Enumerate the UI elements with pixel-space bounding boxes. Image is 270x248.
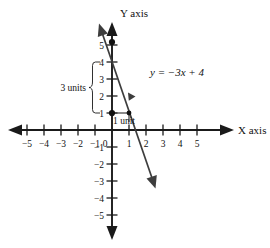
x-tick-label: 2 xyxy=(144,139,149,149)
y-tick-label: −1 xyxy=(94,143,104,153)
x-tick-label: −5 xyxy=(22,139,32,149)
x-axis-left-arrow-icon xyxy=(8,125,22,136)
y-axis-title: Y axis xyxy=(120,7,148,19)
y-axis-positive-tick-labels: 1 2 3 4 5 xyxy=(99,41,104,119)
y-axis-bottom-arrow-icon xyxy=(107,226,118,240)
y-tick-label: −2 xyxy=(94,160,104,170)
x-tick-label: −4 xyxy=(39,139,49,149)
rise-brace xyxy=(89,62,100,113)
x-tick-label: 5 xyxy=(195,139,200,149)
axes-group xyxy=(8,22,234,240)
y-axis-top-arrow-icon xyxy=(107,22,118,36)
x-tick-label: 3 xyxy=(161,139,166,149)
y-tick-label: 2 xyxy=(99,92,104,102)
run-annotation-label: 1 unit xyxy=(113,116,135,126)
point-dot-0-5 xyxy=(109,39,115,45)
x-axis-title: X axis xyxy=(238,124,266,136)
y-tick-label: 4 xyxy=(99,58,104,68)
x-tick-label: −2 xyxy=(73,139,83,149)
equation-label: y = −3x + 4 xyxy=(149,66,205,78)
rise-brace-group xyxy=(89,62,100,113)
line-upper-arrow-icon xyxy=(98,24,108,38)
y-tick-label: −3 xyxy=(94,177,104,187)
rise-annotation-label: 3 units xyxy=(60,83,86,93)
y-axis-negative-tick-labels: −1 −2 −3 −4 −5 xyxy=(94,143,104,221)
x-tick-label: 4 xyxy=(178,139,183,149)
x-tick-label: −3 xyxy=(56,139,66,149)
x-tick-label: 1 xyxy=(127,139,132,149)
graph-canvas: −5 −4 −3 −2 −1 1 2 3 4 5 0 1 2 3 4 5 −1 … xyxy=(0,0,270,248)
point-dot-1-1 xyxy=(127,111,132,116)
coordinate-graph-figure: −5 −4 −3 −2 −1 1 2 3 4 5 0 1 2 3 4 5 −1 … xyxy=(0,0,270,248)
y-tick-label: −4 xyxy=(94,194,104,204)
y-tick-label: 5 xyxy=(99,41,104,51)
y-tick-label: 3 xyxy=(99,75,104,85)
y-tick-label: −5 xyxy=(94,211,104,221)
y-tick-label: 1 xyxy=(99,109,104,119)
slope-direction-arrow-icon xyxy=(128,93,136,101)
function-line xyxy=(103,34,153,178)
line-lower-arrow-icon xyxy=(147,175,157,189)
x-axis-right-arrow-icon xyxy=(220,125,234,136)
